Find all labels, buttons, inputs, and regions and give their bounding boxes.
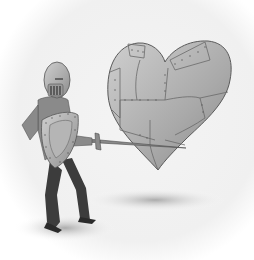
illustration-canvas [0,0,254,260]
